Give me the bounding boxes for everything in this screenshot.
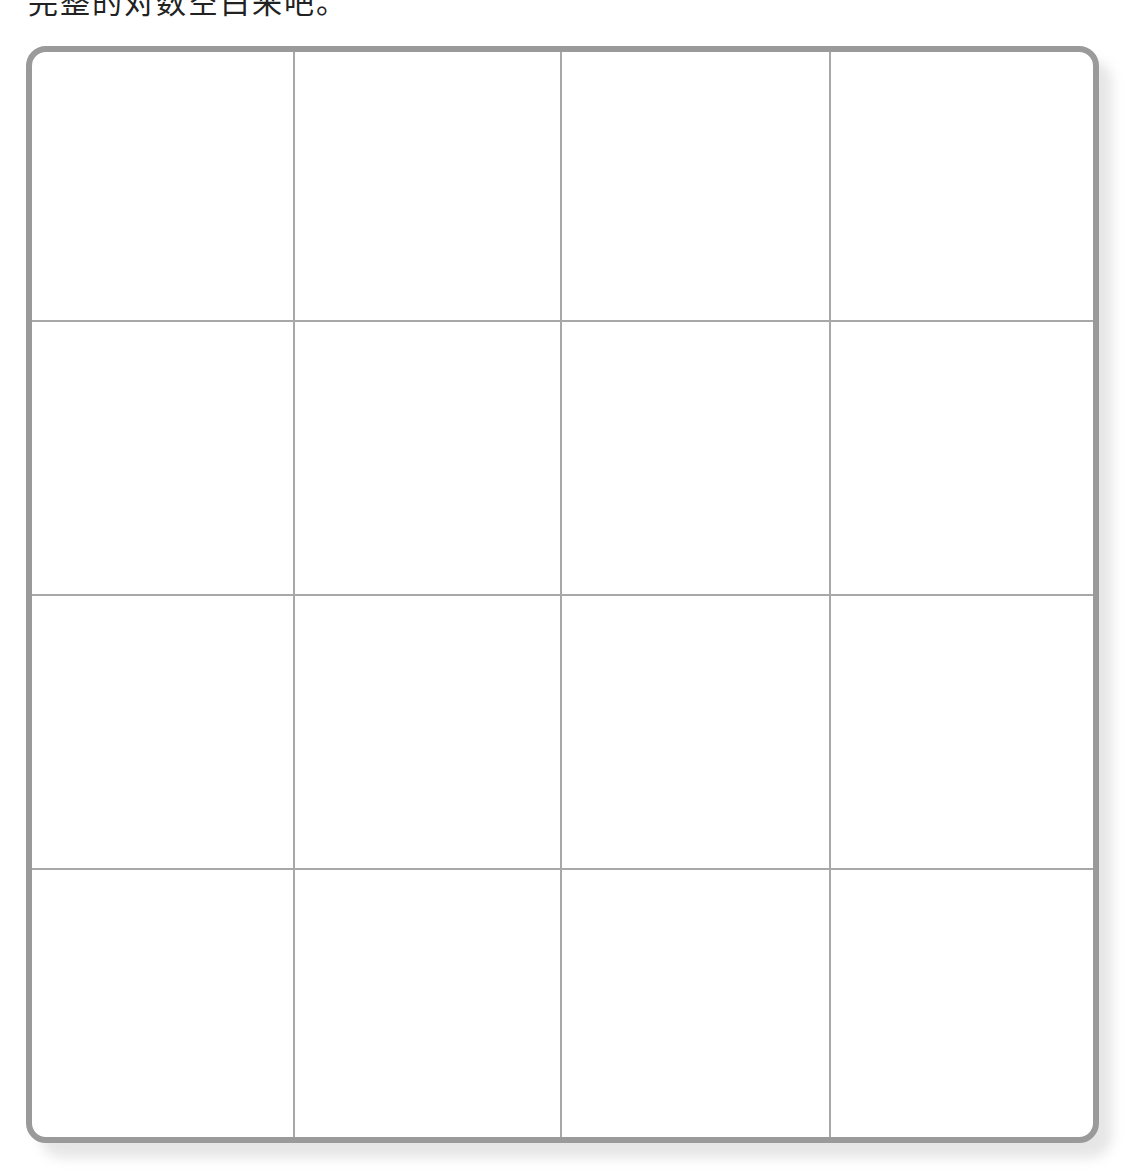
grid-cell-r1c3 [562, 52, 829, 320]
grid-cell-r3c1 [32, 596, 293, 868]
grid-cell-r3c4 [831, 596, 1093, 868]
caption-text: 完整的对数空白来吧。 [28, 0, 348, 22]
grid-cell-r4c1 [32, 870, 293, 1137]
grid-cell-r4c3 [562, 870, 829, 1137]
grid-cell-r4c4 [831, 870, 1093, 1137]
grid-cell-r1c1 [32, 52, 293, 320]
grid-cell-r2c4 [831, 322, 1093, 594]
grid-cell-r1c4 [831, 52, 1093, 320]
grid-cell-r1c2 [295, 52, 560, 320]
grid-board [26, 46, 1099, 1143]
grid-cell-r3c3 [562, 596, 829, 868]
grid-cell-r3c2 [295, 596, 560, 868]
grid-cell-r2c1 [32, 322, 293, 594]
grid-cell-r2c2 [295, 322, 560, 594]
grid-cell-r4c2 [295, 870, 560, 1137]
grid-cell-r2c3 [562, 322, 829, 594]
